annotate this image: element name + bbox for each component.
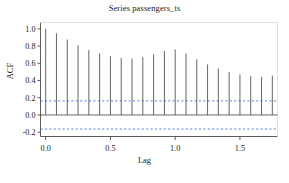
y-axis-tick-label: 0.6 bbox=[25, 59, 35, 68]
acf-plot-figure: Series passengers_ts ACF Lag -0.20.00.20… bbox=[0, 0, 289, 183]
x-axis-tick-group: 0.00.51.01.5 bbox=[41, 137, 245, 153]
x-axis-tick-label: 0.0 bbox=[41, 144, 51, 153]
y-axis-tick-group: -0.20.00.20.40.60.81.0 bbox=[23, 25, 41, 137]
y-axis-tick-label: 0.2 bbox=[25, 94, 35, 103]
y-axis-tick-label: 0.0 bbox=[25, 111, 35, 120]
x-axis-tick-label: 0.5 bbox=[105, 144, 115, 153]
y-axis-tick-label: 0.8 bbox=[25, 42, 35, 51]
x-axis-tick-label: 1.0 bbox=[170, 144, 180, 153]
plot-frame bbox=[41, 23, 278, 137]
y-axis-tick-label: -0.2 bbox=[23, 128, 36, 137]
y-axis-tick-label: 1.0 bbox=[25, 25, 35, 34]
y-axis-tick-label: 0.4 bbox=[25, 76, 35, 85]
x-axis-tick-label: 1.5 bbox=[235, 144, 245, 153]
acf-spike-group bbox=[46, 29, 273, 115]
plot-canvas: -0.20.00.20.40.60.81.0 0.00.51.01.5 bbox=[0, 0, 289, 183]
